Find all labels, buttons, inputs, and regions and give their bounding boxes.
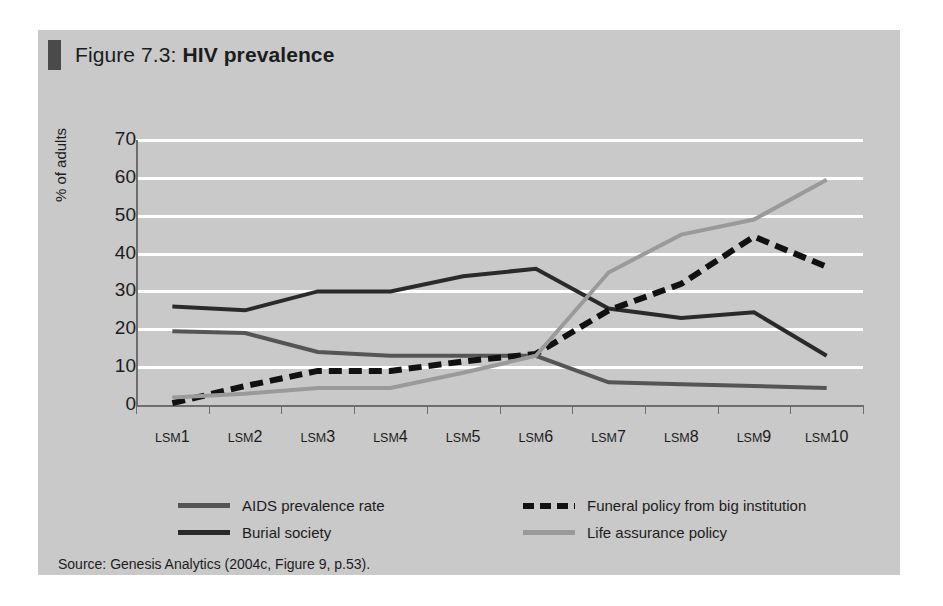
x-tick — [209, 405, 210, 414]
legend-label: Burial society — [242, 524, 331, 541]
legend-row-1: AIDS prevalence rate Funeral policy from… — [178, 492, 878, 519]
chart-legend: AIDS prevalence rate Funeral policy from… — [178, 492, 878, 546]
series-lines — [136, 140, 863, 405]
y-tick-label: 60 — [90, 166, 136, 188]
legend-label: Funeral policy from big institution — [587, 497, 806, 514]
x-tick — [136, 405, 137, 414]
x-tick — [645, 405, 646, 414]
x-tick — [354, 405, 355, 414]
y-axis-title: % of adults — [52, 85, 69, 245]
x-tick — [281, 405, 282, 414]
x-tick-label: LSM4 — [373, 428, 408, 446]
y-tick-label: 20 — [90, 317, 136, 339]
x-tick — [427, 405, 428, 414]
y-tick-label: 40 — [90, 242, 136, 264]
x-tick-label: LSM2 — [228, 428, 263, 446]
x-tick-label: LSM5 — [446, 428, 481, 446]
legend-label: AIDS prevalence rate — [242, 497, 385, 514]
x-tick-label: LSM7 — [591, 428, 626, 446]
y-tick-label: 10 — [90, 355, 136, 377]
legend-swatch-icon — [178, 503, 230, 508]
y-tick-label: 70 — [90, 128, 136, 150]
y-tick-label: 30 — [90, 279, 136, 301]
figure-panel: Figure 7.3: HIV prevalence % of adults 0… — [38, 30, 900, 575]
legend-swatch-icon — [523, 530, 575, 535]
legend-swatch-icon — [178, 530, 230, 535]
x-tick — [572, 405, 573, 414]
legend-item-burial-society[interactable]: Burial society — [178, 524, 523, 541]
legend-row-2: Burial society Life assurance policy — [178, 519, 878, 546]
y-tick-label: 0 — [90, 393, 136, 415]
y-tick-label: 50 — [90, 204, 136, 226]
legend-swatch-icon — [523, 503, 575, 509]
x-tick — [718, 405, 719, 414]
legend-item-funeral-policy[interactable]: Funeral policy from big institution — [523, 497, 806, 514]
plot-region: LSM1LSM2LSM3LSM4LSM5LSM6LSM7LSM8LSM9LSM1… — [136, 140, 863, 405]
x-tick-label: LSM1 — [155, 428, 190, 446]
legend-item-aids-prevalence-rate[interactable]: AIDS prevalence rate — [178, 497, 523, 514]
x-tick-label: LSM3 — [300, 428, 335, 446]
legend-item-life-assurance-policy[interactable]: Life assurance policy — [523, 524, 727, 541]
series-line — [172, 237, 826, 404]
x-tick — [790, 405, 791, 414]
x-tick-label: LSM9 — [737, 428, 772, 446]
x-tick-label: LSM8 — [664, 428, 699, 446]
series-line — [172, 180, 826, 398]
source-note: Source: Genesis Analytics (2004c, Figure… — [58, 556, 370, 572]
y-axis-ticks: 010203040506070 — [78, 30, 136, 575]
x-tick — [863, 405, 864, 414]
x-tick-label: LSM10 — [805, 428, 849, 446]
legend-label: Life assurance policy — [587, 524, 727, 541]
series-line — [172, 269, 826, 356]
x-tick-label: LSM6 — [519, 428, 554, 446]
x-tick — [500, 405, 501, 414]
